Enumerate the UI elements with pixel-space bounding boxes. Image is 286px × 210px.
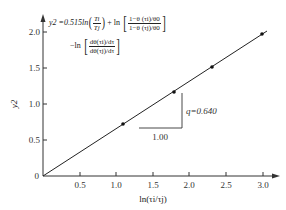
x-ticks [80,172,263,176]
bracket-open: [ [84,37,88,55]
equation-plus-ln: + ln [107,18,120,27]
x-tick-label: 2.5 [220,180,232,190]
data-point [260,32,264,36]
equation-line-2: −ln [dθ(τi)/dτdθ(τj)/dτ] [70,37,121,55]
bracket-close: ] [116,37,120,55]
y-axis-arrow-icon [41,14,46,22]
fraction-T-num: Ti [93,15,101,24]
data-point [210,65,214,69]
data-point [121,122,125,126]
equation-prefix: y2 =0.515ln [49,18,88,27]
fraction-theta: 1−θ (τi)/θ01−θ (τj)/θ0 [128,15,161,32]
y-tick-label: 2.0 [29,27,41,37]
fraction-T: TiTj [93,15,101,32]
fraction-deriv-num: dθ(τi)/dτ [89,38,116,47]
x-axis-arrow-icon [272,174,280,179]
y-tick-label: 1.5 [29,63,41,73]
fraction-theta-den: 1−θ (τj)/θ0 [128,24,161,32]
y-axis-label: y2 [9,99,19,109]
y-ticks [43,32,47,140]
slope-triangle [139,93,182,128]
y-tick-label: 0.5 [29,135,41,145]
y-tick-label: 0 [35,171,40,181]
x-tick-label: 1.5 [147,180,159,190]
fraction-theta-num: 1−θ (τi)/θ0 [128,15,161,24]
paren-open: ( [89,16,92,30]
bracket-close: ] [162,14,166,32]
bracket-open: [ [123,14,127,32]
equation-line-1: y2 =0.515ln(TiTj) + ln [1−θ (τi)/θ01−θ (… [49,14,167,32]
x-tick-label: 0.5 [74,180,86,190]
y-tick-label: 1.0 [29,99,41,109]
paren-close: ) [101,16,104,30]
run-label: 1.00 [152,132,168,142]
data-point [172,90,176,94]
x-tick-label: 1.0 [110,180,122,190]
equation-minus-ln: −ln [70,41,81,50]
fraction-deriv: dθ(τi)/dτdθ(τj)/dτ [89,38,116,55]
x-tick-label: 3.0 [257,180,269,190]
fraction-deriv-den: dθ(τj)/dτ [89,47,116,55]
x-tick-label: 2.0 [183,180,195,190]
slope-label: q=0.640 [186,106,217,116]
fraction-T-den: Tj [93,24,101,32]
x-axis-label: ln(τi/τj) [139,194,167,204]
